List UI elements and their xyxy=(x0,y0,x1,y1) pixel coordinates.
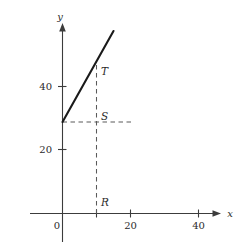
tick-label-x40: 40 xyxy=(192,220,205,231)
x-axis-arrow-icon xyxy=(213,210,222,217)
y-axis-label: y xyxy=(56,11,63,22)
labels-group: y x 0 20 40 20 40 T S R xyxy=(39,11,233,231)
point-label-T: T xyxy=(101,65,109,77)
guide-lines-group xyxy=(63,65,132,214)
y-axis-arrow-icon xyxy=(59,23,66,32)
point-label-R: R xyxy=(100,196,109,208)
axes-group xyxy=(30,23,221,242)
tick-label-y20: 20 xyxy=(39,144,52,155)
tick-marks-group xyxy=(58,87,199,218)
tick-label-origin: 0 xyxy=(54,220,60,231)
x-axis-label: x xyxy=(227,208,233,219)
point-label-S: S xyxy=(101,110,108,122)
coordinate-plane-figure: y x 0 20 40 20 40 T S R xyxy=(0,0,241,250)
tick-label-x20: 20 xyxy=(124,220,137,231)
figure-canvas: y x 0 20 40 20 40 T S R xyxy=(0,0,241,250)
tick-label-y40: 40 xyxy=(39,81,52,92)
